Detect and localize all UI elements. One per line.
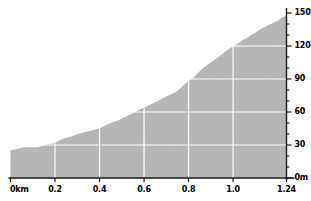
y-axis-tick-label: 120 — [295, 42, 311, 50]
y-axis-tick-label: 150 — [295, 9, 311, 17]
x-axis-tick-label: 0.4 — [93, 186, 107, 194]
y-axis-tick-label: 30 — [295, 141, 306, 149]
y-axis-tick-label: 90 — [295, 75, 306, 83]
x-axis-tick-label: 0.6 — [137, 186, 151, 194]
x-axis-tick-label: 0.2 — [48, 186, 62, 194]
x-axis-tick-label: 0.8 — [182, 186, 196, 194]
y-axis-tick-label: 60 — [295, 108, 306, 116]
y-axis-tick-label: 0m — [295, 174, 309, 182]
elevation-area-fill — [11, 15, 287, 178]
x-axis-tick-label: 0km — [10, 186, 29, 194]
x-axis-tick-label: 1.24 — [277, 186, 296, 194]
profile-plot-area — [0, 0, 311, 201]
elevation-profile-chart: 0km0.20.40.60.81.01.24 0m306090120150 — [0, 0, 311, 201]
area-fill-group — [11, 15, 287, 178]
x-axis-tick-label: 1.0 — [226, 186, 240, 194]
y-axis-major-ticks — [287, 13, 292, 178]
